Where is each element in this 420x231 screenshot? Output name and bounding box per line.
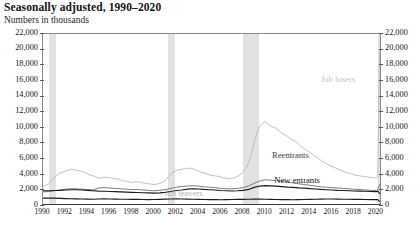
x-tick-label: 2018 <box>346 208 361 216</box>
chart-title: Seasonally adjusted, 1990–2020 <box>4 1 161 13</box>
annotation-new-entrants: New entrants <box>274 175 320 185</box>
x-tick-label: 1998 <box>123 208 138 216</box>
x-tick-label: 2000 <box>146 208 161 216</box>
y-tick-label-left: 18,000 <box>15 60 38 68</box>
y-tick-label-right: 10,000 <box>385 123 408 131</box>
y-tickmark-right <box>379 49 383 50</box>
y-tickmark-left <box>40 49 44 50</box>
y-tick-label-right: 18,000 <box>385 60 408 68</box>
y-tick-label-right: 12,000 <box>385 107 408 115</box>
y-tick-label-right: 0 <box>385 201 389 209</box>
x-tick-label: 1996 <box>101 208 116 216</box>
y-tickmark-right <box>379 33 383 34</box>
y-tick-label-left: 14,000 <box>15 91 38 99</box>
x-tick-label: 2012 <box>279 208 294 216</box>
chart-page: Seasonally adjusted, 1990–2020 Numbers i… <box>0 0 420 231</box>
y-tickmark-right <box>379 64 383 65</box>
chart-subtitle: Numbers in thousands <box>4 15 89 25</box>
y-tickmark-left <box>40 189 44 190</box>
y-tickmark-left <box>40 142 44 143</box>
y-tickmark-left <box>40 80 44 81</box>
y-tick-label-left: 4,000 <box>19 170 38 178</box>
y-tickmark-left <box>40 111 44 112</box>
x-tick-label: 1994 <box>79 208 94 216</box>
y-tick-label-left: 8,000 <box>19 138 38 146</box>
y-tickmark-left <box>40 205 44 206</box>
y-tickmark-right <box>379 142 383 143</box>
annotation-reentrants: Reentrants <box>272 150 309 160</box>
y-tickmark-left <box>40 158 44 159</box>
y-tickmark-right <box>379 189 383 190</box>
y-tick-label-right: 2,000 <box>385 185 404 193</box>
x-tick-label: 2006 <box>212 208 227 216</box>
y-tick-label-right: 22,000 <box>385 29 408 37</box>
y-tickmark-right <box>379 205 383 206</box>
y-tick-label-right: 8,000 <box>385 138 404 146</box>
x-tick-label: 2002 <box>168 208 183 216</box>
series-lines <box>43 34 380 204</box>
series-line-job-losers <box>43 50 380 186</box>
x-tick-label: 2004 <box>190 208 205 216</box>
x-tick-label: 2014 <box>301 208 316 216</box>
x-tick-label: 2016 <box>323 208 338 216</box>
x-tick-label: 1992 <box>57 208 72 216</box>
y-tick-label-left: 10,000 <box>15 123 38 131</box>
y-tick-label-left: 12,000 <box>15 107 38 115</box>
y-tickmark-right <box>379 174 383 175</box>
y-tick-label-left: 2,000 <box>19 185 38 193</box>
annotation-job-losers: Job losers <box>321 74 355 84</box>
plot-inner <box>43 34 380 204</box>
y-tickmark-left <box>40 64 44 65</box>
y-tick-label-left: 6,000 <box>19 154 38 162</box>
y-tick-label-right: 20,000 <box>385 44 408 52</box>
x-tick-label: 2020 <box>368 208 383 216</box>
y-tick-label-right: 16,000 <box>385 76 408 84</box>
y-tick-label-left: 22,000 <box>15 29 38 37</box>
y-tickmark-left <box>40 127 44 128</box>
annotation-job-leavers: Job leavers <box>164 188 202 198</box>
y-tick-label-left: 20,000 <box>15 44 38 52</box>
y-tickmark-right <box>379 111 383 112</box>
y-tick-label-right: 14,000 <box>385 91 408 99</box>
plot-area <box>42 33 381 205</box>
y-tickmark-right <box>379 80 383 81</box>
x-tick-label: 2010 <box>257 208 272 216</box>
y-tickmark-left <box>40 96 44 97</box>
y-tick-label-right: 4,000 <box>385 170 404 178</box>
y-tickmark-left <box>40 33 44 34</box>
series-line-job-leavers <box>43 198 380 201</box>
y-tickmark-right <box>379 127 383 128</box>
y-tickmark-left <box>40 174 44 175</box>
x-tick-label: 1990 <box>34 208 49 216</box>
y-tickmark-right <box>379 96 383 97</box>
y-tickmark-right <box>379 158 383 159</box>
x-tick-label: 2008 <box>234 208 249 216</box>
y-tick-label-left: 16,000 <box>15 76 38 84</box>
y-tick-label-right: 6,000 <box>385 154 404 162</box>
